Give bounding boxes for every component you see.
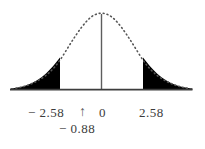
axis-tick-label-group: − 2.58 ↑ 0 2.58 − 0.88	[0, 100, 205, 149]
right-tail-shaded-region	[143, 58, 193, 90]
tick-label-right-critical: 2.58	[139, 105, 164, 121]
test-statistic-value-label: − 0.88	[59, 121, 95, 137]
test-statistic-arrow-icon: ↑	[79, 104, 87, 120]
normal-curve-figure: − 2.58 ↑ 0 2.58 − 0.88	[0, 0, 205, 149]
tick-label-center: 0	[99, 105, 106, 121]
normal-distribution-plot	[0, 0, 205, 100]
left-tail-shaded-region	[11, 58, 61, 90]
tick-label-left-critical: − 2.58	[28, 105, 64, 121]
